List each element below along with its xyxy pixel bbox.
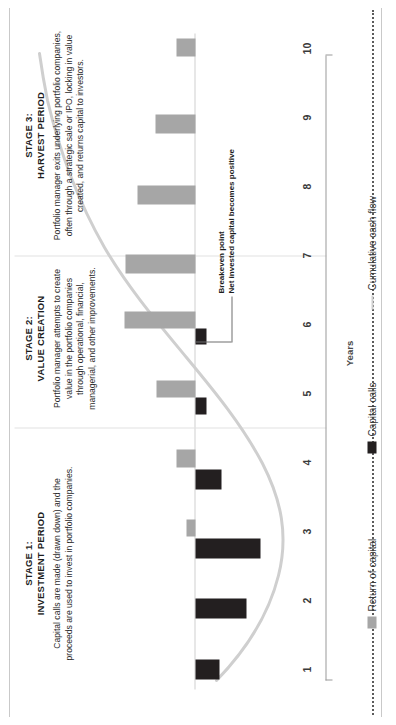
stage-block-3: STAGE 3: HARVEST PERIOD Portfolio manage… bbox=[22, 21, 86, 249]
bar-capital-calls-y4 bbox=[195, 469, 221, 489]
x-axis-tick-start bbox=[325, 679, 332, 680]
bar-return-of-capital-y7 bbox=[125, 254, 195, 273]
x-tick-label-6: 6 bbox=[300, 312, 312, 336]
legend-item-cumulative-cash-flow[interactable]: Cumulative cash flow bbox=[366, 196, 377, 309]
bar-return-of-capital-y4 bbox=[176, 449, 195, 467]
stage-2-name: VALUE CREATION bbox=[34, 263, 46, 413]
x-tick-label-2: 2 bbox=[300, 588, 312, 612]
x-tick-label-1: 1 bbox=[300, 657, 312, 681]
legend-item-return-of-capital[interactable]: Return of capital bbox=[366, 538, 377, 628]
legend-swatch-cumulative-cash-flow bbox=[371, 295, 373, 309]
stage-3-name: HARVEST PERIOD bbox=[34, 21, 46, 249]
bar-capital-calls-y2 bbox=[195, 598, 246, 618]
bar-return-of-capital-y8 bbox=[137, 185, 195, 204]
legend-label-capital-calls: Capital calls bbox=[366, 382, 377, 436]
x-axis-line bbox=[325, 55, 326, 680]
bar-return-of-capital-y3 bbox=[186, 519, 195, 536]
breakeven-annotation: Breakeven point Net invested capital bec… bbox=[216, 149, 236, 294]
x-tick-label-7: 7 bbox=[300, 243, 312, 267]
bar-return-of-capital-y10 bbox=[176, 38, 195, 56]
stage-block-1: STAGE 1: INVESTMENT PERIOD Capital calls… bbox=[22, 463, 74, 663]
x-tick-label-10: 10 bbox=[300, 36, 312, 60]
legend-swatch-return-of-capital bbox=[367, 616, 376, 628]
legend-swatch-capital-calls bbox=[367, 441, 376, 453]
stage-3-description: Portfolio manager exits underlying portf… bbox=[51, 21, 86, 249]
breakeven-leader-vertical bbox=[195, 341, 231, 342]
bar-capital-calls-y1 bbox=[195, 659, 219, 679]
stage-block-2: STAGE 2: VALUE CREATION Portfolio manage… bbox=[22, 263, 97, 413]
stage-3-number: STAGE 3: bbox=[22, 21, 34, 249]
x-tick-label-5: 5 bbox=[300, 381, 312, 405]
x-tick-label-3: 3 bbox=[300, 519, 312, 543]
x-tick-label-9: 9 bbox=[300, 105, 312, 129]
rotated-chart-canvas: Breakeven point Net invested capital bec… bbox=[0, 0, 396, 725]
legend-label-return-of-capital: Return of capital bbox=[366, 538, 377, 611]
plot-area: Breakeven point Net invested capital bec… bbox=[0, 0, 396, 725]
bar-return-of-capital-y9 bbox=[155, 114, 195, 133]
bar-capital-calls-y3 bbox=[195, 538, 260, 558]
stage-1-description: Capital calls are made (drawn down) and … bbox=[51, 463, 74, 663]
stage-1-number: STAGE 1: bbox=[22, 463, 34, 663]
breakeven-subtitle: Net invested capital becomes positive bbox=[226, 149, 236, 294]
bar-return-of-capital-y6 bbox=[124, 311, 195, 328]
legend-label-cumulative-cash-flow: Cumulative cash flow bbox=[366, 196, 377, 290]
x-tick-label-4: 4 bbox=[300, 450, 312, 474]
stage-2-description: Portfolio manager attempts to create val… bbox=[51, 263, 97, 413]
x-axis-tick-end bbox=[325, 54, 332, 55]
x-axis-title: Years bbox=[343, 313, 354, 393]
stage-1-name: INVESTMENT PERIOD bbox=[34, 463, 46, 663]
stage-2-number: STAGE 2: bbox=[22, 263, 34, 413]
breakeven-leader-horizontal bbox=[231, 296, 232, 342]
bar-capital-calls-y5 bbox=[195, 397, 206, 414]
x-tick-label-8: 8 bbox=[300, 174, 312, 198]
breakeven-title: Breakeven point bbox=[216, 149, 226, 294]
legend-item-capital-calls[interactable]: Capital calls bbox=[366, 382, 377, 453]
bar-return-of-capital-y5 bbox=[156, 380, 195, 397]
